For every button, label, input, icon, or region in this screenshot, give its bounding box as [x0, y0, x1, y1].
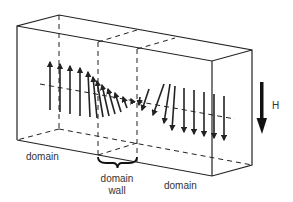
domain-wall-diagram	[0, 0, 293, 202]
right-domain-label: domain	[164, 180, 197, 191]
left-domain-label: domain	[26, 151, 59, 162]
domain-wall-label-line2: wall	[97, 185, 137, 196]
magnetic-moments	[50, 62, 224, 140]
field-label: H	[272, 100, 279, 111]
domain-wall-label-line1: domain	[97, 173, 137, 184]
box-hidden-edges	[17, 15, 252, 165]
field-arrow-icon	[257, 82, 268, 134]
